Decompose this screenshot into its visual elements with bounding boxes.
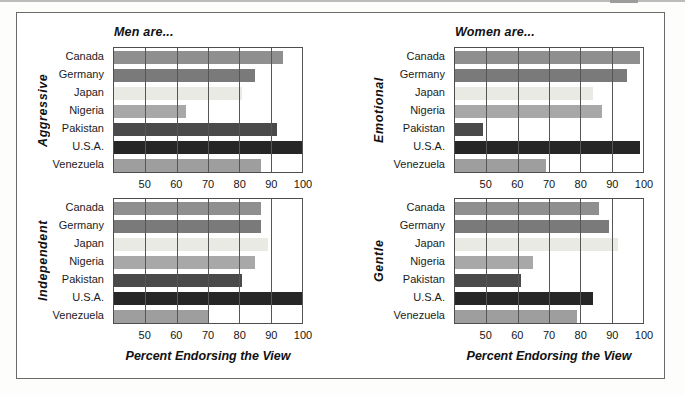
plot-aggressive — [113, 47, 303, 173]
gridline-70-aggressive — [208, 48, 209, 172]
x-ticks-independent: 5060708090100 — [113, 329, 303, 343]
country-label-japan-independent: Japan — [46, 234, 108, 252]
gridline-50-gentle — [486, 199, 487, 323]
bar-nigeria-independent — [114, 256, 255, 269]
bar-germany-gentle — [455, 220, 609, 233]
panel-title-women-are: Women are... — [455, 25, 535, 39]
tick-label-50-aggressive: 50 — [139, 178, 151, 190]
bar-japan-emotional — [455, 87, 593, 100]
country-labels-independent: CanadaGermanyJapanNigeriaPakistanU.S.A.V… — [46, 198, 108, 324]
tick-label-80-independent: 80 — [234, 329, 246, 341]
country-label-nigeria-gentle: Nigeria — [387, 252, 449, 270]
country-label-canada-emotional: Canada — [387, 47, 449, 65]
tick-label-70-emotional: 70 — [543, 178, 555, 190]
panel-title-men-are: Men are... — [114, 25, 174, 39]
bar-pakistan-emotional — [455, 123, 483, 136]
bar-germany-emotional — [455, 69, 627, 82]
tick-label-90-aggressive: 90 — [265, 178, 277, 190]
tick-label-100-aggressive: 100 — [294, 178, 312, 190]
gridline-100-independent — [302, 199, 303, 323]
tick-label-60-aggressive: 60 — [170, 178, 182, 190]
tick-label-70-gentle: 70 — [543, 329, 555, 341]
x-ticks-gentle: 5060708090100 — [454, 329, 644, 343]
x-ticks-aggressive: 5060708090100 — [113, 178, 303, 192]
gridline-70-emotional — [549, 48, 550, 172]
tick-label-100-emotional: 100 — [635, 178, 653, 190]
tick-label-50-independent: 50 — [139, 329, 151, 341]
gridline-80-independent — [239, 199, 240, 323]
country-label-pakistan-gentle: Pakistan — [387, 270, 449, 288]
country-label-venezuela-gentle: Venezuela — [387, 306, 449, 324]
gridline-80-gentle — [580, 199, 581, 323]
tick-label-50-emotional: 50 — [480, 178, 492, 190]
tick-label-80-aggressive: 80 — [234, 178, 246, 190]
tick-label-70-independent: 70 — [202, 329, 214, 341]
gridline-50-independent — [145, 199, 146, 323]
country-label-usa-aggressive: U.S.A. — [46, 137, 108, 155]
bar-canada-gentle — [455, 202, 599, 215]
country-label-venezuela-emotional: Venezuela — [387, 155, 449, 173]
country-label-canada-gentle: Canada — [387, 198, 449, 216]
tick-label-90-emotional: 90 — [606, 178, 618, 190]
gridline-100-gentle — [643, 199, 644, 323]
bar-pakistan-gentle — [455, 274, 521, 287]
tick-label-70-aggressive: 70 — [202, 178, 214, 190]
country-label-japan-aggressive: Japan — [46, 83, 108, 101]
bar-nigeria-gentle — [455, 256, 533, 269]
gridline-100-emotional — [643, 48, 644, 172]
bar-pakistan-independent — [114, 274, 242, 287]
bar-venezuela-independent — [114, 310, 208, 323]
country-label-canada-aggressive: Canada — [46, 47, 108, 65]
figure-page: Men are... Women are... Aggressive Emoti… — [0, 0, 685, 395]
country-label-usa-gentle: U.S.A. — [387, 288, 449, 306]
scan-artifact-top-strip — [0, 0, 685, 2]
bar-nigeria-aggressive — [114, 105, 186, 118]
country-label-usa-independent: U.S.A. — [46, 288, 108, 306]
x-axis-label-left: Percent Endorsing the View — [113, 349, 303, 363]
gridline-80-aggressive — [239, 48, 240, 172]
plot-independent — [113, 198, 303, 324]
bar-usa-gentle — [455, 292, 593, 305]
country-label-nigeria-aggressive: Nigeria — [46, 101, 108, 119]
country-label-venezuela-independent: Venezuela — [46, 306, 108, 324]
gridline-100-aggressive — [302, 48, 303, 172]
gridline-70-gentle — [549, 199, 550, 323]
trait-label-gentle: Gentle — [371, 198, 387, 324]
gridline-90-aggressive — [271, 48, 272, 172]
bar-canada-aggressive — [114, 51, 283, 64]
tick-label-100-gentle: 100 — [635, 329, 653, 341]
bar-japan-gentle — [455, 238, 618, 251]
bar-japan-aggressive — [114, 87, 242, 100]
country-label-germany-gentle: Germany — [387, 216, 449, 234]
country-label-nigeria-independent: Nigeria — [46, 252, 108, 270]
gridline-90-independent — [271, 199, 272, 323]
tick-label-80-gentle: 80 — [575, 329, 587, 341]
country-label-pakistan-aggressive: Pakistan — [46, 119, 108, 137]
country-label-germany-emotional: Germany — [387, 65, 449, 83]
country-labels-aggressive: CanadaGermanyJapanNigeriaPakistanU.S.A.V… — [46, 47, 108, 173]
gridline-90-gentle — [612, 199, 613, 323]
country-label-canada-independent: Canada — [46, 198, 108, 216]
country-labels-emotional: CanadaGermanyJapanNigeriaPakistanU.S.A.V… — [387, 47, 449, 173]
gridline-70-independent — [208, 199, 209, 323]
tick-label-100-independent: 100 — [294, 329, 312, 341]
bar-venezuela-gentle — [455, 310, 577, 323]
x-ticks-emotional: 5060708090100 — [454, 178, 644, 192]
gridline-60-aggressive — [177, 48, 178, 172]
tick-label-60-gentle: 60 — [511, 329, 523, 341]
gridline-80-emotional — [580, 48, 581, 172]
plot-gentle — [454, 198, 644, 324]
tick-label-90-independent: 90 — [265, 329, 277, 341]
tick-label-60-emotional: 60 — [511, 178, 523, 190]
scan-artifact-top-right-block — [610, 0, 638, 3]
gridline-60-independent — [177, 199, 178, 323]
trait-label-emotional: Emotional — [371, 47, 387, 173]
country-label-germany-aggressive: Germany — [46, 65, 108, 83]
tick-label-50-gentle: 50 — [480, 329, 492, 341]
country-label-pakistan-emotional: Pakistan — [387, 119, 449, 137]
country-label-usa-emotional: U.S.A. — [387, 137, 449, 155]
bar-japan-independent — [114, 238, 268, 251]
gridline-50-aggressive — [145, 48, 146, 172]
country-label-japan-gentle: Japan — [387, 234, 449, 252]
bar-venezuela-emotional — [455, 159, 546, 172]
